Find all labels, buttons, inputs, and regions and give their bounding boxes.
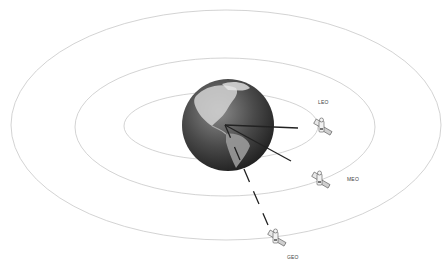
label-meo: MEO xyxy=(347,176,359,182)
orbit-diagram-svg xyxy=(0,0,447,265)
label-geo: GEO xyxy=(287,254,299,260)
label-leo: LEO xyxy=(318,99,329,105)
satellite-meo-icon xyxy=(312,171,330,188)
orbit-diagram: LEO MEO GEO xyxy=(0,0,447,265)
